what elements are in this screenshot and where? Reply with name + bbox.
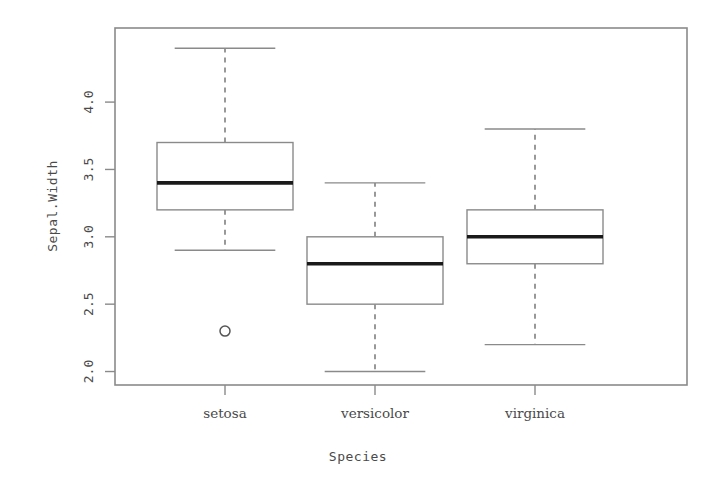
y-tick-label: 3.5 [81,158,96,181]
y-tick-label: 4.0 [81,90,96,113]
y-axis-title: Sepal.Width [45,160,60,252]
x-tick-label: setosa [203,405,246,421]
x-tick-label: virginica [504,405,565,421]
boxplot-figure: 2.02.53.03.54.0 setosaversicolorvirginic… [0,0,716,490]
box-iqr [157,143,293,210]
boxplot-svg: 2.02.53.03.54.0 setosaversicolorvirginic… [0,0,716,490]
box-iqr [307,237,443,304]
x-tick-label: versicolor [340,405,409,421]
y-tick-label: 2.5 [81,292,96,315]
y-tick-label: 3.0 [81,225,96,248]
x-axis-title: Species [329,449,387,464]
y-tick-label: 2.0 [81,360,96,383]
